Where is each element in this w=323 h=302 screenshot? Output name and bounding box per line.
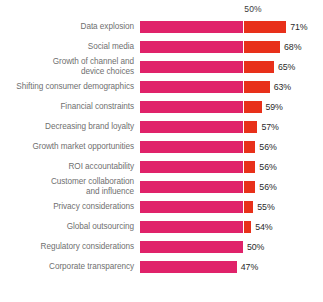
bar — [140, 221, 251, 233]
bar — [140, 121, 257, 133]
bar-row: Customer collaboration and influence56% — [0, 181, 323, 193]
bar-row: Shifting consumer demographics63% — [0, 81, 323, 93]
bar — [140, 41, 280, 53]
bar — [140, 61, 274, 73]
bar-row: ROI accountability56% — [0, 161, 323, 173]
bar-row: Global outsourcing54% — [0, 221, 323, 233]
bar — [140, 261, 237, 273]
bar — [140, 21, 286, 33]
bar-category-label: Privacy considerations — [0, 202, 134, 212]
bar-segment-below-threshold — [140, 241, 243, 253]
bar-category-label: Decreasing brand loyalty — [0, 122, 134, 132]
bar-value-label: 56% — [259, 182, 276, 192]
bar-segment-above-threshold — [243, 181, 255, 193]
bar — [140, 181, 255, 193]
bar-value-label: 71% — [290, 22, 307, 32]
bar — [140, 101, 262, 113]
bar-row: Social media68% — [0, 41, 323, 53]
bar-row: Data explosion71% — [0, 21, 323, 33]
bar-category-label: Financial constraints — [0, 102, 134, 112]
bar-row: Growth market opportunities56% — [0, 141, 323, 153]
bar-segment-above-threshold — [243, 121, 257, 133]
bar-value-label: 56% — [259, 162, 276, 172]
bar-value-label: 57% — [261, 122, 278, 132]
bar — [140, 161, 255, 173]
bar-category-label: ROI accountability — [0, 162, 134, 172]
bar — [140, 141, 255, 153]
bar-segment-below-threshold — [140, 141, 243, 153]
bar-value-label: 68% — [284, 42, 301, 52]
bar-segment-below-threshold — [140, 121, 243, 133]
bar-category-label: Corporate transparency — [0, 262, 134, 272]
bar-segment-above-threshold — [243, 141, 255, 153]
bar-row: Growth of channel and device choices65% — [0, 61, 323, 73]
bar — [140, 81, 270, 93]
bar-segment-below-threshold — [140, 41, 243, 53]
bar-value-label: 55% — [257, 202, 274, 212]
bar-segment-above-threshold — [243, 81, 270, 93]
bar-row: Corporate transparency47% — [0, 261, 323, 273]
bar-row: Decreasing brand loyalty57% — [0, 121, 323, 133]
bar-segment-below-threshold — [140, 221, 243, 233]
bar-segment-above-threshold — [243, 41, 280, 53]
bar-segment-above-threshold — [243, 61, 274, 73]
bar-value-label: 63% — [274, 82, 291, 92]
bar-row: Regulatory considerations50% — [0, 241, 323, 253]
bar-segment-above-threshold — [243, 201, 253, 213]
bar-segment-above-threshold — [243, 21, 286, 33]
bar-category-label: Global outsourcing — [0, 222, 134, 232]
bar-segment-below-threshold — [140, 261, 237, 273]
bar-row: Privacy considerations55% — [0, 201, 323, 213]
bar-rows-container: Data explosion71%Social media68%Growth o… — [0, 0, 323, 302]
bar-segment-below-threshold — [140, 201, 243, 213]
bar-value-label: 47% — [241, 262, 258, 272]
bar-category-label: Growth market opportunities — [0, 142, 134, 152]
bar-category-label: Customer collaboration and influence — [0, 177, 134, 196]
bar-category-label: Regulatory considerations — [0, 242, 134, 252]
bar-chart: 50% Data explosion71%Social media68%Grow… — [0, 0, 323, 302]
bar-segment-above-threshold — [243, 221, 251, 233]
bar-segment-below-threshold — [140, 81, 243, 93]
bar — [140, 201, 253, 213]
bar-segment-above-threshold — [243, 161, 255, 173]
bar-value-label: 56% — [259, 142, 276, 152]
bar-category-label: Social media — [0, 42, 134, 52]
bar-category-label: Shifting consumer demographics — [0, 82, 134, 92]
bar-segment-above-threshold — [243, 101, 262, 113]
bar-category-label: Data explosion — [0, 22, 134, 32]
bar-segment-below-threshold — [140, 181, 243, 193]
bar-value-label: 50% — [247, 242, 264, 252]
bar-segment-below-threshold — [140, 21, 243, 33]
bar-value-label: 65% — [278, 62, 295, 72]
bar-segment-below-threshold — [140, 61, 243, 73]
bar-row: Financial constraints59% — [0, 101, 323, 113]
bar-segment-below-threshold — [140, 161, 243, 173]
bar-segment-below-threshold — [140, 101, 243, 113]
bar — [140, 241, 243, 253]
bar-value-label: 59% — [266, 102, 283, 112]
bar-category-label: Growth of channel and device choices — [0, 57, 134, 76]
bar-value-label: 54% — [255, 222, 272, 232]
